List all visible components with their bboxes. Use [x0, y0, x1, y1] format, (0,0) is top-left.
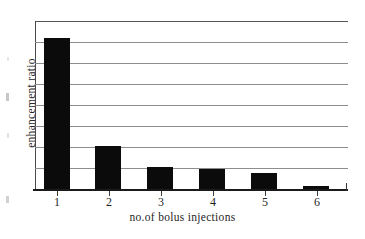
gridline	[35, 63, 348, 64]
bar-chart-figure: enhancement ratio 1 2 3 4 5 6 no.of bolu…	[0, 0, 365, 239]
x-axis-line	[33, 189, 348, 191]
scan-artifact	[6, 196, 9, 203]
x-axis-end-cap	[346, 183, 347, 191]
x-tick-label-5: 5	[245, 195, 285, 210]
x-axis-label: no.of bolus injections	[0, 211, 365, 223]
gridline	[35, 84, 348, 85]
x-tick-label-4: 4	[193, 195, 233, 210]
scan-artifact	[6, 93, 9, 101]
gridline	[35, 147, 348, 148]
bar-category-2	[95, 146, 121, 189]
gridline	[35, 105, 348, 106]
plot-area	[35, 21, 348, 189]
scan-artifact	[7, 57, 9, 61]
x-tick-label-6: 6	[297, 195, 337, 210]
x-tick-label-2: 2	[89, 195, 129, 210]
bar-category-5	[251, 173, 277, 189]
bar-category-4	[199, 169, 225, 189]
x-tick-label-1: 1	[37, 195, 77, 210]
plot-frame-top-border	[35, 21, 348, 22]
bar-category-1	[44, 38, 70, 189]
gridline	[35, 42, 348, 43]
gridline	[35, 126, 348, 127]
gridline	[35, 168, 348, 169]
bar-category-3	[147, 167, 173, 189]
scan-artifact	[7, 133, 9, 138]
x-tick-label-3: 3	[141, 195, 181, 210]
